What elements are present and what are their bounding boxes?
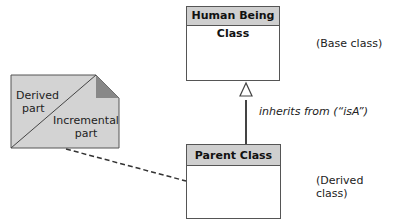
note-fold-icon xyxy=(96,75,119,98)
inheritance-label: inherits from (“isA”) xyxy=(259,105,368,118)
inheritance-arrow-icon xyxy=(240,83,252,96)
note-incremental-line2: part xyxy=(53,127,119,140)
derived-class-annotation: (Derived class) xyxy=(316,174,397,200)
note-incremental-part: Incremental part xyxy=(53,114,119,140)
note-anchor-line xyxy=(66,149,186,181)
derived-class-box: Parent Class xyxy=(186,144,281,219)
note-derived-line1: Derived xyxy=(16,89,59,102)
base-class-annotation: (Base class) xyxy=(316,37,382,50)
derived-class-title: Parent Class xyxy=(187,145,280,166)
base-class-box: Human Being Class xyxy=(186,6,280,81)
note-derived-part: Derived part xyxy=(16,89,59,115)
note-incremental-line1: Incremental xyxy=(53,114,119,127)
base-class-title: Human Being Class xyxy=(187,7,279,26)
